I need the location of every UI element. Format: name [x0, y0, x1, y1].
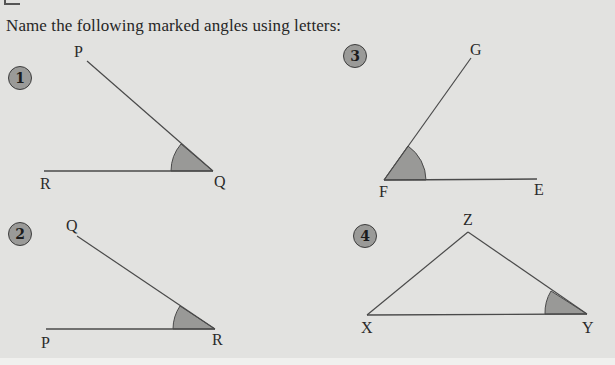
figure-4-diagram [367, 232, 587, 315]
point-label-p: P [41, 335, 50, 351]
point-label-z: Z [463, 212, 473, 228]
figure-2-diagram [46, 236, 215, 329]
point-label-r: R [212, 332, 223, 348]
point-label-r: R [40, 176, 51, 192]
figure-1-diagram [44, 61, 213, 171]
point-label-y: Y [582, 320, 594, 336]
angle-diagrams [0, 0, 615, 365]
figure-1-number-badge: 1 [8, 66, 32, 90]
point-label-q: Q [214, 174, 226, 190]
point-label-q: Q [66, 218, 78, 234]
point-label-e: E [534, 182, 544, 198]
ray-fe [384, 179, 537, 180]
ray-rq [77, 236, 215, 329]
figure-3-diagram [384, 58, 537, 180]
angle-marker-y [545, 291, 587, 314]
figure-4-number-badge: 4 [353, 224, 377, 248]
figure-2-number-badge: 2 [8, 222, 32, 246]
angle-marker-r [173, 306, 215, 329]
point-label-f: F [379, 184, 388, 200]
angle-marker-q [171, 144, 213, 171]
point-label-p: P [74, 44, 83, 60]
ray-fg [384, 58, 471, 180]
figure-3-number-badge: 3 [343, 44, 367, 68]
point-label-g: G [470, 42, 482, 58]
point-label-x: X [361, 320, 373, 336]
side-zy [468, 232, 587, 314]
side-xy [367, 314, 587, 315]
ray-qp [87, 61, 213, 171]
side-xz [367, 232, 468, 315]
